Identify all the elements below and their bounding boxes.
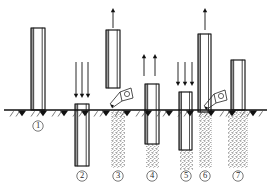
force-arrow-up-stage-4 — [142, 54, 146, 76]
number-text: 7 — [236, 170, 240, 180]
ground-hatch-mark — [52, 111, 56, 116]
hopper-wheel — [218, 93, 223, 98]
hopper-chute — [110, 92, 120, 104]
number-text: 4 — [150, 170, 155, 180]
tube-left-wall — [31, 28, 34, 110]
arrow-head — [86, 94, 90, 98]
force-arrow-up-stage-4 — [153, 54, 157, 76]
aggregate-column-stage-3 — [111, 110, 125, 168]
arrow-head — [74, 94, 78, 98]
casing-tubes — [31, 28, 245, 166]
aggregate-column-stage-7 — [228, 110, 248, 168]
stage-number-5: 5 — [181, 170, 191, 181]
tube-core — [182, 92, 190, 150]
ground-hatch-mark — [259, 111, 263, 116]
ground-hatch-mark — [37, 111, 41, 116]
arrow-head — [190, 82, 194, 86]
stage-number-1: 1 — [33, 120, 43, 131]
ground-surface — [4, 110, 267, 117]
ground-hatch-mark — [94, 111, 98, 116]
tube-right-wall — [242, 60, 245, 110]
tube-core — [201, 34, 209, 112]
tube-right-wall — [117, 30, 120, 88]
force-arrow-up-stage-3 — [111, 8, 115, 28]
stage-number-2: 2 — [77, 170, 87, 181]
number-text: 6 — [203, 170, 207, 180]
tube-left-wall — [231, 60, 234, 110]
arrow-head — [176, 82, 180, 86]
aggregate-column-stage-5 — [180, 150, 193, 170]
number-text: 2 — [80, 170, 84, 180]
force-arrow-down-stage-5 — [183, 62, 187, 86]
tube-right-wall — [42, 28, 45, 110]
stage-number-7: 7 — [233, 170, 243, 181]
tube-core — [234, 60, 242, 110]
aggregate-hopper-stage-3 — [110, 88, 133, 108]
arrow-head — [142, 54, 146, 58]
number-text: 5 — [184, 170, 188, 180]
arrow-head — [111, 8, 115, 12]
hopper-chute-lower — [112, 101, 122, 108]
arrow-head — [203, 8, 207, 12]
ground-hatch-mark — [220, 111, 224, 116]
arrow-head — [80, 94, 84, 98]
tube-core — [34, 28, 42, 110]
ground-hatch-mark — [10, 111, 14, 116]
aggregate-column-stage-4 — [146, 144, 159, 168]
casing-tube-stage-3 — [106, 30, 120, 88]
force-arrow-down-stage-2 — [80, 62, 84, 98]
diagram-canvas: 1234567 — [0, 0, 271, 192]
ground-hatch-mark — [16, 111, 20, 116]
force-arrows — [74, 8, 207, 98]
stage-number-6: 6 — [200, 170, 210, 181]
tube-core — [109, 30, 117, 88]
force-arrow-up-stage-6 — [203, 8, 207, 30]
force-arrow-down-stage-5 — [190, 62, 194, 86]
number-text: 3 — [116, 170, 120, 180]
aggregate-column-stage-6 — [199, 110, 212, 168]
force-arrow-down-stage-5 — [176, 62, 180, 86]
casing-tube-stage-1 — [31, 28, 45, 110]
ground-hatch-mark — [31, 111, 35, 116]
arrow-head — [153, 54, 157, 58]
number-text: 1 — [36, 120, 40, 130]
casing-tube-stage-5 — [179, 92, 192, 150]
arrow-head — [183, 82, 187, 86]
stage-number-3: 3 — [113, 170, 123, 181]
hopper-wheel — [124, 91, 129, 96]
force-arrow-down-stage-2 — [74, 62, 78, 98]
ground-hatch-mark — [100, 111, 104, 116]
tube-left-wall — [106, 30, 109, 88]
ground-hatch-mark — [163, 111, 167, 116]
ground-hatch-mark — [136, 111, 140, 116]
pile-construction-diagram: 1234567 — [0, 0, 271, 192]
casing-tube-stage-7 — [231, 60, 245, 110]
stage-number-4: 4 — [147, 170, 157, 181]
ground-hatch-mark — [58, 111, 62, 116]
force-arrow-down-stage-2 — [86, 62, 90, 98]
